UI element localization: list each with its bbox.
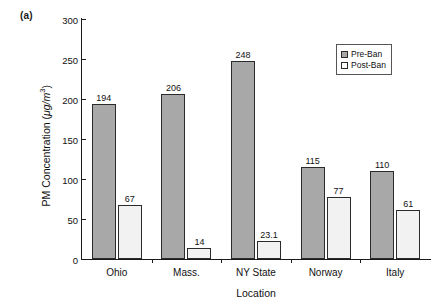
y-axis-title-suffix: ) <box>40 85 52 89</box>
bar-value-label: 248 <box>235 50 250 60</box>
x-axis-tick-mark <box>360 259 361 263</box>
x-axis-category-label: Norway <box>309 267 343 278</box>
bar-value-label: 14 <box>194 237 204 247</box>
y-axis-tick-label: 300 <box>62 15 78 26</box>
x-axis-category-label: Italy <box>386 267 404 278</box>
y-axis-tick-label: 250 <box>62 55 78 66</box>
legend-item-label: Pre-Ban <box>351 50 382 59</box>
y-axis-title-unit: μg/m <box>40 93 52 116</box>
bar-value-label: 115 <box>305 156 319 166</box>
bar-ny-state-post-ban[interactable]: 23.1 <box>257 241 281 259</box>
bar-value-label: 77 <box>334 186 344 196</box>
legend-item-pre-ban[interactable]: Pre-Ban <box>341 49 386 59</box>
y-axis-tick-mark <box>82 259 86 260</box>
bar-ohio-pre-ban[interactable]: 194 <box>92 104 116 259</box>
bar-norway-pre-ban[interactable]: 115 <box>301 167 325 259</box>
y-axis-tick-label: 200 <box>62 95 78 106</box>
y-axis-tick: 100 <box>62 170 82 188</box>
bar-italy-pre-ban[interactable]: 110 <box>370 171 394 259</box>
x-axis-tick-mark <box>152 259 153 263</box>
bar-value-label: 206 <box>166 83 181 93</box>
y-axis-tick-mark <box>82 19 86 20</box>
y-axis-tick-label: 150 <box>62 135 78 146</box>
legend: Pre-BanPost-Ban <box>336 44 392 75</box>
y-axis-tick-mark <box>82 219 86 220</box>
legend-swatch-icon <box>341 51 348 58</box>
legend-item-label: Post-Ban <box>351 61 386 70</box>
y-axis-tick-mark <box>82 139 86 140</box>
x-axis-tick-mark <box>221 259 222 263</box>
legend-swatch-icon <box>341 62 348 69</box>
y-axis-tick-label: 100 <box>62 175 78 186</box>
legend-item-post-ban[interactable]: Post-Ban <box>341 60 386 70</box>
bar-italy-post-ban[interactable]: 61 <box>396 210 420 259</box>
figure-panel-a: (a) PM Concentration (μg/m3) Location 05… <box>0 0 446 307</box>
y-axis-tick: 0 <box>73 250 82 268</box>
x-axis-line <box>81 259 431 260</box>
y-axis-tick-mark <box>82 99 86 100</box>
y-axis-tick: 200 <box>62 90 82 108</box>
y-axis-title-prefix: PM Concentration ( <box>40 116 52 206</box>
y-axis-tick: 150 <box>62 130 82 148</box>
bar-value-label: 61 <box>403 199 413 209</box>
bar-value-label: 23.1 <box>260 230 278 240</box>
bar-ohio-post-ban[interactable]: 67 <box>118 205 142 259</box>
y-axis-tick: 300 <box>62 10 82 28</box>
bar-value-label: 110 <box>375 160 389 170</box>
x-axis-tick-mark <box>291 259 292 263</box>
y-axis-tick: 250 <box>62 50 82 68</box>
y-axis-tick-label: 50 <box>67 215 78 226</box>
y-axis-tick: 50 <box>67 210 82 228</box>
bar-value-label: 194 <box>96 93 111 103</box>
y-axis-tick-label: 0 <box>73 255 78 266</box>
bar-mass--post-ban[interactable]: 14 <box>187 248 211 259</box>
panel-label: (a) <box>20 10 33 21</box>
x-axis-category-label: NY State <box>236 267 276 278</box>
bar-ny-state-pre-ban[interactable]: 248 <box>231 61 255 259</box>
y-axis-title: PM Concentration (μg/m3) <box>38 46 52 246</box>
x-axis-category-label: Mass. <box>173 267 200 278</box>
bar-mass--pre-ban[interactable]: 206 <box>161 94 185 259</box>
bar-value-label: 67 <box>125 194 135 204</box>
y-axis-tick-mark <box>82 179 86 180</box>
bar-norway-post-ban[interactable]: 77 <box>327 197 351 259</box>
x-axis-title: Location <box>82 287 430 299</box>
y-axis-tick-mark <box>82 59 86 60</box>
x-axis-category-label: Ohio <box>106 267 127 278</box>
y-axis-title-exponent: 3 <box>38 89 47 93</box>
